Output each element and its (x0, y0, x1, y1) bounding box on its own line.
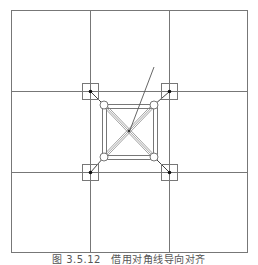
anchor-dot-icon (89, 171, 93, 175)
corner-circle-icon (100, 153, 108, 161)
diagonal-alignment-diagram (0, 0, 258, 265)
leader-line-stroke (130, 67, 154, 130)
corner-circle-icon (150, 101, 158, 109)
anchor-dot-icon (168, 171, 172, 175)
anchor-dot-icon (168, 90, 172, 94)
figure-caption: 图 3.5.12 借用对角线导向对齐 (0, 254, 258, 265)
corner-circle-icon (100, 101, 108, 109)
center-point-icon (128, 130, 130, 132)
anchor-dot-icon (89, 90, 93, 94)
corner-circle-icon (150, 153, 158, 161)
leader-line (128, 67, 154, 132)
